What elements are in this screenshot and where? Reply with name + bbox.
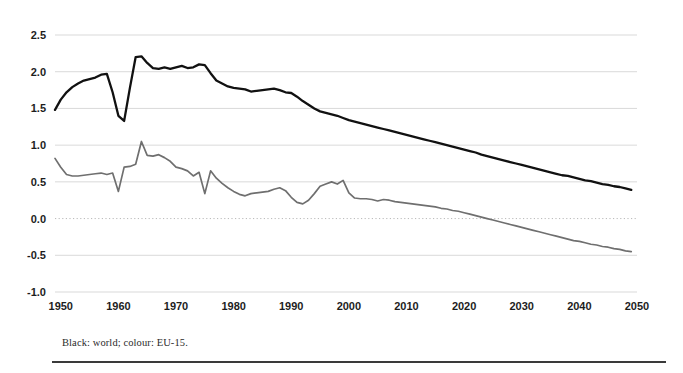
y-axis-tick-label: 0.0 bbox=[31, 213, 46, 225]
y-axis-tick-labels: 2.52.01.51.00.50.0-0.5-1.0 bbox=[27, 29, 46, 298]
data-series bbox=[55, 56, 631, 251]
y-axis-tick-label: -0.5 bbox=[27, 249, 46, 261]
x-axis-tick-label: 1950 bbox=[49, 300, 73, 312]
x-axis-tick-label: 2010 bbox=[394, 300, 418, 312]
x-axis-tick-labels: 1950196019701980199020002010202020302040… bbox=[49, 300, 650, 312]
x-axis-tick-label: 2020 bbox=[452, 300, 476, 312]
x-axis-tick-label: 2040 bbox=[567, 300, 591, 312]
line-chart: 2.52.01.51.00.50.0-0.5-1.0 1950196019701… bbox=[0, 0, 683, 373]
x-axis-tick-label: 1970 bbox=[164, 300, 188, 312]
x-axis-tick-label: 1960 bbox=[106, 300, 130, 312]
gridlines bbox=[55, 35, 637, 292]
x-axis-tick-label: 2000 bbox=[337, 300, 361, 312]
x-axis-tick-label: 2030 bbox=[510, 300, 534, 312]
y-axis-tick-label: 2.5 bbox=[31, 29, 46, 41]
x-axis-tick-label: 2050 bbox=[625, 300, 649, 312]
y-axis-tick-label: 1.0 bbox=[31, 139, 46, 151]
y-axis-tick-label: 2.0 bbox=[31, 66, 46, 78]
chart-caption: Black: world; colour: EU-15. bbox=[62, 337, 188, 348]
series-line-world bbox=[55, 56, 631, 190]
y-axis-tick-label: 1.5 bbox=[31, 102, 46, 114]
x-axis-tick-label: 1980 bbox=[221, 300, 245, 312]
figure-container: 2.52.01.51.00.50.0-0.5-1.0 1950196019701… bbox=[0, 0, 683, 373]
x-axis-tick-label: 1990 bbox=[279, 300, 303, 312]
y-axis-tick-label: -1.0 bbox=[27, 286, 46, 298]
bottom-divider bbox=[52, 361, 666, 363]
series-line-eu-15 bbox=[55, 141, 631, 251]
y-axis-tick-label: 0.5 bbox=[31, 176, 46, 188]
